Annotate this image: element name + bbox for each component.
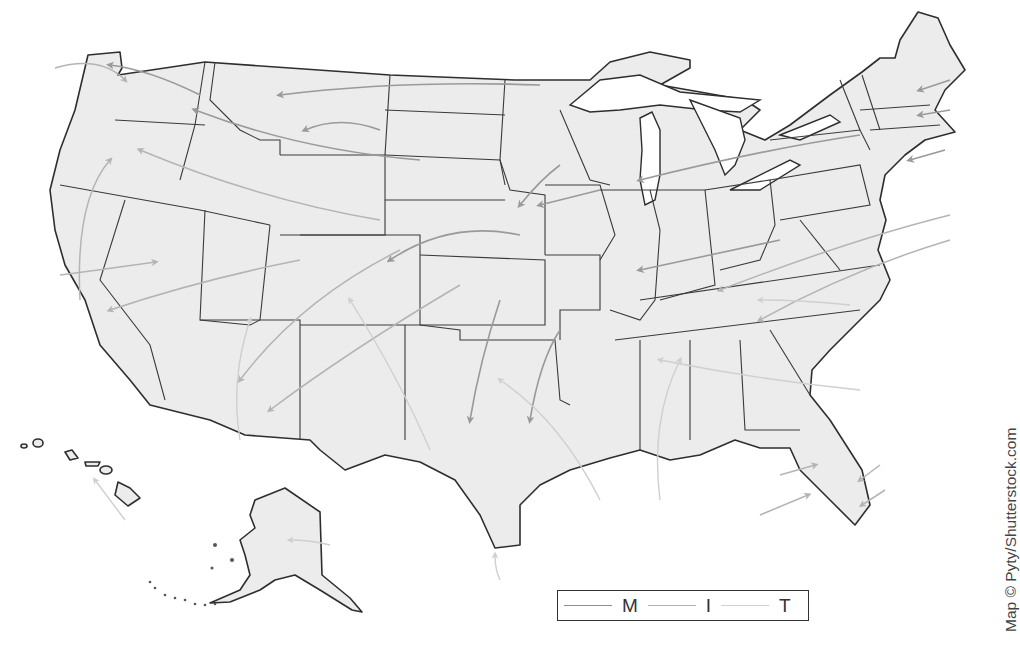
image-credit: Map © Pyty/Shutterstock.com: [1002, 428, 1020, 632]
legend-item-t: T: [721, 595, 791, 617]
legend-line-t: [721, 605, 769, 606]
aleutian-islands: [149, 543, 234, 606]
legend-label-i: I: [706, 595, 711, 617]
legend-item-i: I: [648, 595, 711, 617]
hawaii-islands: [21, 439, 140, 506]
alaska-outline: [210, 488, 362, 612]
legend-label-t: T: [779, 595, 791, 617]
legend-item-m: M: [564, 595, 638, 617]
map-legend: M I T: [557, 590, 809, 621]
legend-label-m: M: [622, 595, 638, 617]
contiguous-us-outline: [50, 12, 965, 548]
legend-line-m: [564, 605, 612, 606]
legend-line-i: [648, 605, 696, 606]
